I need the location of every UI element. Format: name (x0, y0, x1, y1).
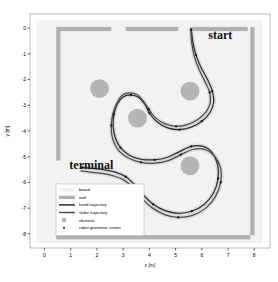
robot-center-marker (177, 216, 179, 218)
robot-center-marker (152, 203, 154, 205)
y-axis-title: y [m] (4, 125, 10, 136)
legend-label: board (79, 187, 90, 192)
obstacle-3 (181, 156, 200, 175)
annotation-terminal: terminal (69, 158, 114, 172)
wall-segment-left-upper (56, 27, 60, 161)
x-tick-label: 4 (148, 252, 151, 258)
wall-segment-top-mid (126, 27, 178, 31)
y-tick-label: -6 (22, 179, 27, 185)
legend-label: obstacle (79, 218, 95, 223)
robot-center-marker (110, 124, 112, 126)
x-tick-label: 0 (43, 252, 46, 258)
robot-center-marker (148, 108, 150, 110)
robot-center-marker (125, 176, 127, 178)
legend-circle-obstacle (62, 218, 67, 223)
robot-center-marker (191, 210, 193, 212)
x-tick-label: 6 (200, 252, 203, 258)
robot-center-marker (180, 154, 182, 156)
y-tick-label: -2 (22, 76, 27, 82)
x-axis-title: x [m] (145, 262, 156, 268)
robot-center-marker (190, 145, 192, 147)
y-tick-label: -1 (22, 51, 27, 57)
y-tick-label: -5 (22, 154, 27, 160)
robot-center-marker (140, 161, 142, 163)
obstacle-0 (90, 79, 109, 98)
x-tick-label: 1 (69, 252, 72, 258)
y-tick-label: -3 (22, 102, 27, 108)
legend-label: slider trajectory (79, 210, 108, 215)
legend-label: wall (79, 195, 86, 200)
obstacle-1 (128, 109, 147, 128)
robot-center-marker (201, 120, 203, 122)
robot-center-marker (220, 181, 222, 183)
trajectory-figure: 0123456780-1-2-3-4-5-6-7-8x [m]y [m]star… (0, 0, 278, 282)
robot-center-marker (195, 54, 197, 56)
y-tick-label: -7 (22, 205, 27, 211)
robot-center-marker (148, 112, 150, 114)
x-tick-label: 5 (174, 252, 177, 258)
wall-segment-top-left (59, 27, 111, 31)
robot-center-marker (113, 113, 115, 115)
robot-center-marker (153, 159, 155, 161)
legend-swatch-board (59, 188, 75, 191)
legend-swatch-wall (59, 196, 75, 199)
legend-label: hand trajectory (79, 202, 108, 207)
robot-center-marker (209, 91, 211, 93)
robot-center-marker (175, 125, 177, 127)
wall-segment-right (250, 27, 254, 235)
plot-canvas: 0123456780-1-2-3-4-5-6-7-8x [m]y [m]star… (0, 0, 278, 282)
legend-label: robot geometric center (79, 225, 122, 230)
x-tick-label: 7 (227, 252, 230, 258)
x-tick-label: 2 (95, 252, 98, 258)
robot-center-marker (178, 129, 180, 131)
robot-center-marker (190, 28, 192, 30)
obstacle-2 (181, 82, 200, 101)
x-tick-label: 8 (253, 252, 256, 258)
legend-dot-robot-center (63, 227, 65, 229)
robot-center-marker (217, 177, 219, 179)
robot-center-marker (119, 147, 121, 149)
robot-center-marker (130, 94, 132, 96)
robot-center-marker (211, 90, 213, 92)
y-tick-label: -4 (22, 128, 27, 134)
annotation-start: start (208, 28, 232, 42)
y-tick-label: 0 (23, 25, 26, 31)
x-tick-label: 3 (122, 252, 125, 258)
y-tick-label: -8 (22, 231, 27, 237)
